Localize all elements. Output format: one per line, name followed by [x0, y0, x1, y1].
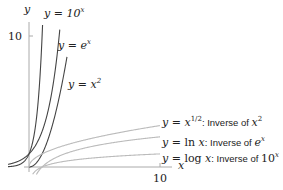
label-log: y = log x: Inverse of 10x	[162, 153, 279, 165]
label-ln: y = ln x: Inverse of ex	[162, 137, 265, 149]
y-tick-label: 10	[8, 31, 22, 43]
x-tick-label: 10	[153, 173, 167, 185]
curve-expx	[8, 30, 60, 165]
curve-lnx	[36, 137, 160, 175]
label-10x: y = 10x	[44, 8, 84, 20]
curve-log10x	[33, 154, 160, 174]
curve-10x	[8, 25, 43, 167]
label-sqrt: y = x1/2: Inverse of x2	[162, 117, 262, 129]
y-axis-label: y	[24, 4, 30, 16]
label-x2: y = x2	[68, 79, 101, 91]
label-ex: y = ex	[58, 40, 91, 52]
